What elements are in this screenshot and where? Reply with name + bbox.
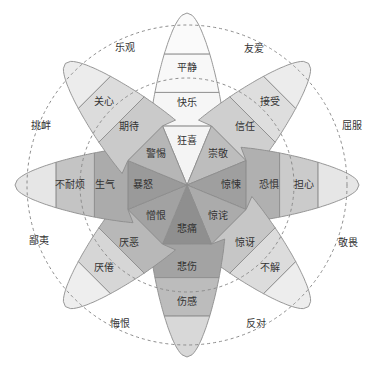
emotion-label-basic: 快乐 <box>177 97 197 108</box>
dyad-label: 乐观 <box>115 42 135 53</box>
emotion-label-basic: 悲伤 <box>177 260 197 272</box>
emotion-label-mild: 接受 <box>260 95 280 107</box>
emotion-label-basic: 厌恶 <box>119 237 139 248</box>
emotion-label-mild: 担心 <box>294 179 314 190</box>
emotion-label-basic: 恐惧 <box>259 179 279 190</box>
petal-segment-mild <box>155 54 219 93</box>
emotion-label-basic: 信任 <box>235 120 255 132</box>
emotion-label-mild: 不解 <box>260 261 280 273</box>
petal-segment-tip <box>164 316 209 357</box>
emotion-label-intense: 惊悚 <box>221 178 241 190</box>
emotion-label-intense: 悲痛 <box>177 222 197 234</box>
emotion-label-intense: 暴怒 <box>133 178 153 190</box>
dyad-label: 挑衅 <box>31 119 51 131</box>
emotion-wheel: 狂喜快乐平静崇敬信任接受惊悚恐惧担心惊诧惊讶不解悲痛悲伤伤感憎恨厌恶厌倦暴怒生气… <box>0 0 375 365</box>
emotion-label-mild: 关心 <box>94 95 114 107</box>
emotion-label-intense: 惊诧 <box>208 209 228 221</box>
petal-segment-tip <box>15 162 56 207</box>
emotion-label-intense: 憎恨 <box>146 209 166 221</box>
dyad-label: 屈服 <box>342 120 362 131</box>
petal-segment-tip <box>164 13 209 54</box>
emotion-label-intense: 警惕 <box>146 147 166 159</box>
emotion-label-mild: 不耐烦 <box>55 178 85 190</box>
emotion-label-basic: 期待 <box>119 120 139 132</box>
dyad-label: 鄙夷 <box>29 234 49 246</box>
dyad-label: 友爱 <box>244 42 264 54</box>
petal-segment-tip <box>318 162 359 207</box>
dyad-label: 悔恨 <box>110 317 130 329</box>
emotion-label-mild: 平静 <box>177 61 197 73</box>
emotion-label-basic: 惊讶 <box>235 236 255 248</box>
dyad-label: 敬畏 <box>338 236 358 248</box>
emotion-label-mild: 厌倦 <box>94 261 114 273</box>
emotion-label-intense: 崇敬 <box>208 147 228 159</box>
emotion-label-intense: 狂喜 <box>177 134 197 146</box>
emotion-label-mild: 伤感 <box>177 295 197 307</box>
dyad-label: 反对 <box>246 317 266 329</box>
emotion-label-basic: 生气 <box>95 178 115 190</box>
